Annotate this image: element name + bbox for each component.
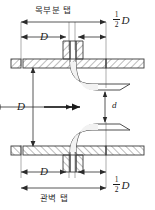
top-half-denominator: 2 (114, 21, 120, 29)
top-upstream-dimension-label: D (40, 31, 48, 42)
upper-pipe-wall (11, 59, 144, 68)
throat-dimension-line (103, 91, 107, 123)
bottom-dimension-line (21, 172, 106, 188)
top-half-symbol: D (122, 14, 130, 26)
lower-pipe-wall (11, 146, 144, 155)
bottom-upstream-dimension-label: D (40, 166, 48, 177)
throat-diameter-label: d (112, 101, 117, 110)
vertical-diameter-label: D (17, 101, 25, 112)
top-dimension-line (21, 22, 106, 37)
upper-tap-boss (63, 41, 83, 59)
lower-tap-boss (63, 155, 83, 172)
bottom-half-denominator: 2 (114, 186, 120, 194)
bottom-caption-label: 관벽 탭 (40, 194, 68, 203)
bottom-half-diameter-label: 1 2 D (113, 176, 129, 194)
figure-container: 목부분 탭 관벽 탭 D D D d 1 2 D 1 2 D (0, 0, 155, 210)
top-half-numerator: 1 (114, 11, 120, 19)
top-caption-label: 목부분 탭 (35, 6, 71, 15)
bottom-half-numerator: 1 (114, 176, 120, 184)
top-half-diameter-label: 1 2 D (113, 11, 129, 29)
bottom-half-symbol: D (122, 179, 130, 191)
